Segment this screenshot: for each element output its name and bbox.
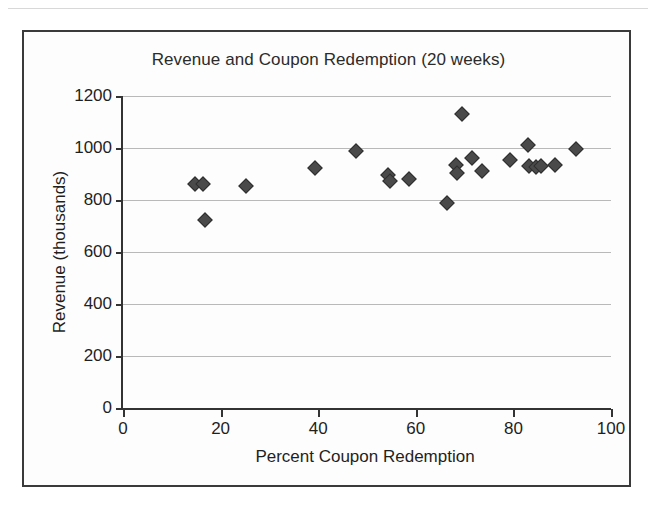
scatter-point — [502, 152, 518, 168]
y-axis-tick-label: 0 — [103, 398, 112, 418]
scatter-point — [348, 143, 364, 159]
scatter-point — [547, 157, 563, 173]
y-axis-tick — [116, 252, 123, 254]
page-scan-line — [8, 8, 648, 9]
x-axis-tick — [221, 409, 223, 417]
x-axis-tick-label: 20 — [211, 419, 230, 439]
x-axis-tick-label: 0 — [118, 419, 127, 439]
y-axis-tick-label: 800 — [84, 190, 112, 210]
x-axis-tick — [513, 409, 515, 417]
y-axis-tick-label: 1000 — [74, 138, 112, 158]
x-axis-tick — [318, 409, 320, 417]
y-axis-tick-label: 200 — [84, 346, 112, 366]
scatter-point — [439, 195, 455, 211]
scatter-point — [454, 106, 470, 122]
scatter-point — [465, 151, 481, 167]
y-axis-tick-label: 600 — [84, 242, 112, 262]
y-axis-tick — [116, 304, 123, 306]
scatter-point — [307, 160, 323, 176]
x-axis-title: Percent Coupon Redemption — [121, 447, 609, 467]
chart-title: Revenue and Coupon Redemption (20 weeks) — [24, 50, 633, 70]
x-axis-tick-label: 40 — [309, 419, 328, 439]
x-axis-tick-label: 80 — [504, 419, 523, 439]
y-gridline — [123, 148, 611, 149]
x-axis-tick — [611, 409, 613, 417]
y-axis-tick — [116, 96, 123, 98]
y-axis-title-text: Revenue (thousands) — [50, 171, 70, 334]
y-gridline — [123, 304, 611, 305]
y-axis-tick — [116, 200, 123, 202]
plot-area: 020040060080010001200020406080100 — [121, 96, 611, 410]
x-axis-tick-label: 100 — [597, 419, 625, 439]
y-axis-tick-label: 400 — [84, 294, 112, 314]
y-axis-tick — [116, 148, 123, 150]
y-axis-tick-label: 1200 — [74, 86, 112, 106]
y-gridline — [123, 96, 611, 97]
scatter-point — [401, 171, 417, 187]
x-axis-tick — [123, 409, 125, 417]
y-gridline — [123, 356, 611, 357]
scatter-point — [520, 137, 536, 153]
x-axis-tick — [416, 409, 418, 417]
y-axis-tick — [116, 356, 123, 358]
scatter-point — [198, 212, 214, 228]
scatter-point — [568, 141, 584, 157]
x-axis-tick-label: 60 — [406, 419, 425, 439]
y-gridline — [123, 200, 611, 201]
y-gridline — [123, 252, 611, 253]
scatter-point — [238, 179, 254, 195]
y-axis-tick — [116, 408, 123, 410]
y-axis-title: Revenue (thousands) — [48, 96, 72, 408]
scatter-point — [474, 163, 490, 179]
chart-figure: Revenue and Coupon Redemption (20 weeks)… — [22, 30, 631, 487]
